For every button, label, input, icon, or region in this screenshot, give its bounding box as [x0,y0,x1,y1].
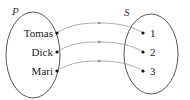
arrow-mari-3-tail [100,61,142,70]
arrow-dick-2 [58,42,100,51]
element-2: 2 [150,46,156,58]
arrow-dick-2-tail [100,42,142,51]
arrow-tomas-1-tail [100,23,142,32]
element-3: 3 [150,65,156,77]
element-dick: Dick [32,46,54,58]
element-1: 1 [150,27,156,39]
arrow-mari-3 [58,61,100,70]
element-mari: Mari [32,65,53,77]
set-label-s: S [124,6,130,18]
arrow-tomas-1 [58,23,100,32]
set-label-p: P [11,5,19,17]
mapping-diagram: P S Tomas Dick Mari 1 2 3 [0,0,190,100]
element-tomas: Tomas [24,27,53,39]
